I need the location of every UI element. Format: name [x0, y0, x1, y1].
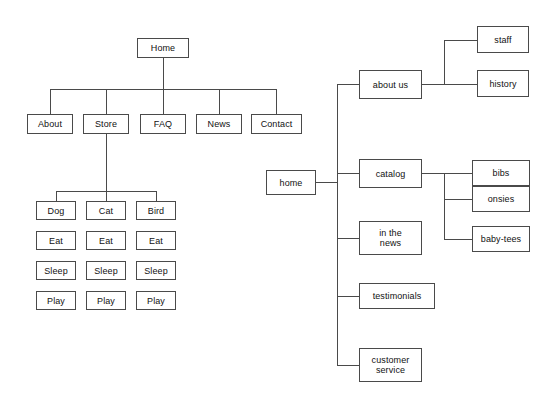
right-edge-to-staff	[444, 40, 477, 41]
left-node-contact: Contact	[251, 114, 302, 134]
right-node-catalog: catalog	[359, 159, 422, 188]
right-node-testimonials: testimonials	[359, 283, 435, 309]
left-node-cat: Cat	[86, 201, 126, 220]
left-node-faq: FAQ	[140, 114, 186, 134]
left-edge-drop-contact	[276, 89, 277, 114]
right-node-customer-service: customer service	[359, 348, 422, 382]
right-edge-to-bibs	[444, 173, 472, 174]
left-node-about: About	[27, 114, 73, 134]
right-edge-about-out	[422, 84, 444, 85]
right-node-about-us: about us	[359, 70, 422, 99]
left-edge-drop-news	[219, 89, 220, 114]
left-node-bird: Bird	[136, 201, 176, 220]
right-edge-catalog-out	[422, 173, 444, 174]
right-node-home: home	[266, 170, 316, 195]
left-node-cat-sleep: Sleep	[86, 261, 126, 280]
left-node-dog: Dog	[36, 201, 76, 220]
right-edge-about-spine	[444, 40, 445, 84]
left-edge-drop-bird	[156, 191, 157, 201]
left-node-cat-play: Play	[86, 291, 126, 310]
right-edge-to-catalog	[337, 173, 359, 174]
left-node-cat-eat: Eat	[86, 231, 126, 250]
left-node-home: Home	[137, 38, 189, 58]
right-node-bibs: bibs	[472, 160, 530, 186]
right-edge-to-history	[444, 84, 477, 85]
right-edge-to-testimonials	[337, 296, 359, 297]
left-node-news: News	[196, 114, 242, 134]
left-node-bird-sleep: Sleep	[136, 261, 176, 280]
left-edge-home-down	[163, 58, 164, 89]
left-edge-drop-about	[50, 89, 51, 114]
left-node-store: Store	[83, 114, 129, 134]
left-edge-drop-store	[106, 89, 107, 114]
right-edge-to-about-us	[337, 84, 359, 85]
right-edge-to-customer-service	[337, 365, 359, 366]
right-edge-to-onsies	[444, 199, 472, 200]
left-edge-drop-dog	[56, 191, 57, 201]
right-edge-spine	[337, 84, 338, 365]
left-node-dog-play: Play	[36, 291, 76, 310]
right-edge-to-baby-tees	[444, 239, 472, 240]
right-edge-catalog-spine	[444, 173, 445, 239]
left-edge-drop-cat	[106, 191, 107, 201]
right-edge-home-out	[316, 182, 337, 183]
left-node-bird-eat: Eat	[136, 231, 176, 250]
left-node-bird-play: Play	[136, 291, 176, 310]
right-node-history: history	[477, 70, 529, 97]
right-node-baby-tees: baby-tees	[472, 226, 530, 252]
left-edge-store-down	[106, 134, 107, 191]
right-edge-to-in-the-news	[337, 238, 359, 239]
left-node-dog-sleep: Sleep	[36, 261, 76, 280]
left-edge-drop-faq	[163, 89, 164, 114]
right-node-staff: staff	[477, 26, 529, 53]
left-node-dog-eat: Eat	[36, 231, 76, 250]
diagram-canvas: Home About Store FAQ News Contact Dog Ca…	[0, 0, 556, 396]
right-node-in-the-news: in the news	[359, 221, 422, 255]
right-node-onsies: onsies	[472, 186, 530, 212]
